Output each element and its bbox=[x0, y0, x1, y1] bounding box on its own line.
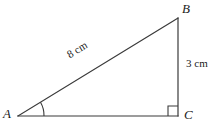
angle-arc-icon bbox=[41, 102, 45, 116]
vertex-label-c: C bbox=[184, 108, 193, 121]
side-length-label-bc: 3 cm bbox=[186, 58, 208, 69]
side-ab-hypotenuse-line bbox=[18, 18, 178, 116]
right-angle-marker-icon bbox=[168, 106, 178, 116]
vertex-label-b: B bbox=[182, 2, 190, 15]
vertex-label-a: A bbox=[3, 107, 11, 120]
geometry-figure: A B C 8 cm 3 cm bbox=[0, 0, 220, 125]
